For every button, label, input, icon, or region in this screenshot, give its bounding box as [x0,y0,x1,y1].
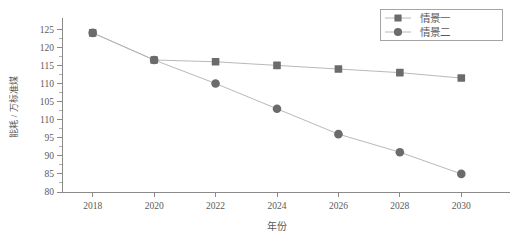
y-tick-label: 85 [45,169,55,179]
circle-marker [394,28,402,36]
x-tick-label: 2026 [329,201,348,211]
y-tick-label: 90 [45,151,55,161]
circle-marker [273,105,282,114]
x-axis: 2018202020222024202620282030 [62,192,510,211]
x-axis-title: 年份 [267,220,287,232]
square-marker [396,69,404,77]
circle-marker [88,29,97,38]
y-tick-label: 110 [40,115,54,125]
legend-label: 情景一 [420,12,451,24]
x-tick-label: 2020 [145,201,164,211]
x-tick-label: 2028 [390,201,409,211]
square-marker [212,58,220,66]
y-tick-label: 110 [40,79,54,89]
square-marker [457,74,465,82]
y-tick-label: 120 [40,43,55,53]
x-axis-ticks [93,192,462,197]
y-tick-label: 95 [45,133,55,143]
square-marker [335,65,343,73]
y-axis: 80859095110105110115120125 [40,18,62,197]
y-axis-title: 能耗 / 万标准煤 [8,76,19,137]
circle-marker [150,56,159,65]
x-tick-label: 2018 [83,201,102,211]
circle-marker [211,79,220,88]
circle-marker [396,148,405,157]
x-axis-tick-labels: 2018202020222024202620282030 [83,201,471,211]
data-series-layer [88,29,465,179]
circle-marker [457,170,466,179]
square-marker [394,14,401,21]
y-tick-label: 125 [40,25,55,35]
circle-marker [334,130,343,139]
square-marker [273,62,281,70]
x-tick-label: 2022 [206,201,225,211]
x-tick-label: 2024 [268,201,287,211]
line-chart: 80859095110105110115120125 2018202020222… [0,0,522,245]
y-axis-tick-labels: 80859095110105110115120125 [40,25,55,198]
chart-legend: 情景一情景二 [380,9,502,40]
y-tick-label: 115 [40,61,54,71]
y-tick-label: 80 [45,187,55,197]
y-tick-label: 105 [40,97,55,107]
series-2 [88,29,465,179]
x-tick-label: 2030 [452,201,471,211]
legend-label: 情景二 [420,26,450,38]
chart-canvas: 80859095110105110115120125 2018202020222… [0,0,522,245]
